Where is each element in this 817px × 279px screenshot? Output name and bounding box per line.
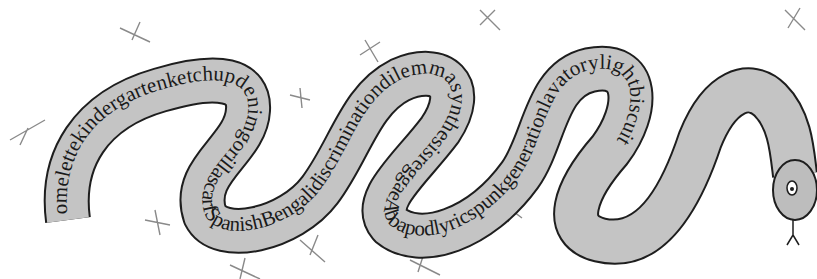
snake-tongue-icon xyxy=(787,220,799,245)
pencil-mark-icon xyxy=(360,40,380,62)
pencil-mark-icon xyxy=(145,210,170,235)
pencil-mark-icon xyxy=(10,120,45,145)
pencil-mark-icon xyxy=(785,8,805,30)
snake-head-icon xyxy=(773,160,817,245)
pencil-mark-icon xyxy=(290,88,310,108)
pencil-mark-icon xyxy=(230,258,260,279)
snake-puzzle-canvas: omelettekindergartenketchupdenimgorillas… xyxy=(0,0,817,279)
pencil-mark-icon xyxy=(480,10,500,30)
pencil-mark-icon xyxy=(120,22,150,42)
pencil-mark-icon xyxy=(300,235,325,262)
